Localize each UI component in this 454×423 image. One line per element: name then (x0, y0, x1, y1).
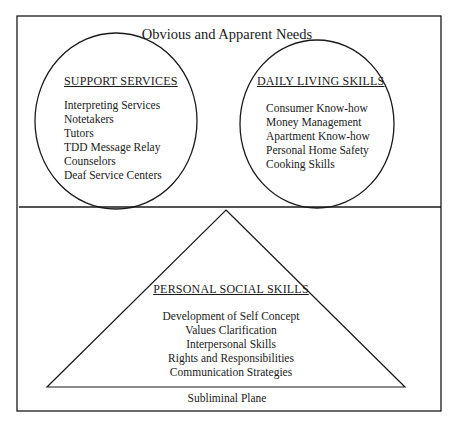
list-item: Notetakers (64, 112, 162, 126)
list-item: Tutors (64, 126, 162, 140)
subliminal-plane-label: Subliminal Plane (0, 393, 454, 405)
list-item: Interpersonal Skills (126, 337, 336, 351)
list-item: Rights and Responsibilities (126, 351, 336, 365)
list-item: Cooking Skills (266, 157, 370, 171)
daily-living-skills-list: Consumer Know-how Money Management Apart… (266, 101, 370, 171)
daily-living-skills-heading: DAILY LIVING SKILLS (257, 75, 384, 87)
personal-social-skills-heading: PERSONAL SOCIAL SKILLS (126, 283, 336, 295)
list-item: Consumer Know-how (266, 101, 370, 115)
support-services-list: Interpreting Services Notetakers Tutors … (64, 98, 162, 182)
list-item: Interpreting Services (64, 98, 162, 112)
personal-social-skills-list: Development of Self Concept Values Clari… (126, 309, 336, 379)
list-item: Development of Self Concept (126, 309, 336, 323)
list-item: Money Management (266, 115, 370, 129)
list-item: Personal Home Safety (266, 143, 370, 157)
list-item: Deaf Service Centers (64, 168, 162, 182)
list-item: Apartment Know-how (266, 129, 370, 143)
list-item: Communication Strategies (126, 365, 336, 379)
list-item: Values Clarification (126, 323, 336, 337)
support-services-heading: SUPPORT SERVICES (64, 75, 178, 87)
diagram-title: Obvious and Apparent Needs (0, 27, 454, 42)
list-item: TDD Message Relay (64, 140, 162, 154)
list-item: Counselors (64, 154, 162, 168)
